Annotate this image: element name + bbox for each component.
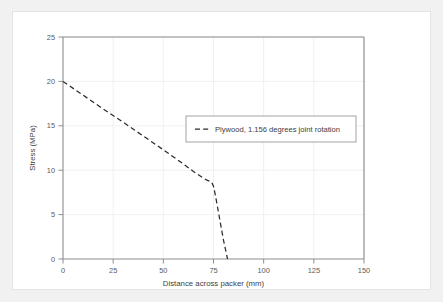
x-tick-label-125: 125	[308, 266, 320, 275]
y-axis-ticks	[59, 37, 64, 259]
legend[interactable]: Plywood, 1.156 degrees joint rotation	[186, 116, 356, 142]
x-tick-label-100: 100	[257, 266, 269, 275]
x-tick-label-25: 25	[109, 266, 117, 275]
x-tick-label-75: 75	[209, 266, 217, 275]
y-tick-label-20: 20	[47, 77, 55, 86]
x-axis-title: Distance across packer (mm)	[163, 279, 265, 288]
x-tick-label-50: 50	[159, 266, 167, 275]
y-tick-label-10: 10	[47, 166, 55, 175]
legend-entry-label: Plywood, 1.156 degrees joint rotation	[215, 125, 340, 134]
y-tick-label-0: 0	[51, 255, 55, 264]
y-axis-title: Stress (MPa)	[28, 125, 37, 171]
y-tick-label-15: 15	[47, 121, 55, 130]
figure-root: 0 5 10 15 20 25 0 25 50	[0, 0, 443, 302]
y-tick-label-25: 25	[47, 33, 55, 42]
y-tick-label-5: 5	[51, 210, 55, 219]
x-tick-label-0: 0	[61, 266, 65, 275]
figure-panel: 0 5 10 15 20 25 0 25 50	[12, 11, 431, 290]
x-axis-tick-labels: 0 25 50 75 100 125 150	[61, 266, 370, 275]
y-axis-tick-labels: 0 5 10 15 20 25	[47, 33, 55, 264]
stress-distance-line-chart: 0 5 10 15 20 25 0 25 50	[13, 12, 432, 291]
x-axis-ticks	[63, 259, 364, 264]
x-tick-label-150: 150	[358, 266, 370, 275]
